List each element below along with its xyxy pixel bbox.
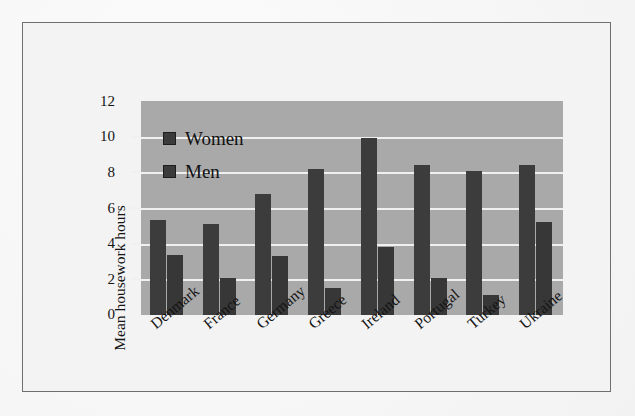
legend-entry-women: Women [163, 127, 244, 149]
tick-stub-4 [131, 243, 140, 245]
y-tick-0: 0 [75, 307, 115, 322]
legend-swatch-women-icon [163, 132, 176, 145]
chart-figure: Mean housework hours 12 10 8 6 4 2 0 D [0, 0, 635, 416]
legend-label-women: Women [185, 129, 244, 148]
y-tick-12: 12 [75, 94, 115, 109]
y-tick-2: 2 [75, 272, 115, 287]
y-tick-10: 10 [75, 129, 115, 144]
tick-stub-6 [131, 207, 140, 209]
bar-denmark-women [150, 220, 166, 315]
tick-stub-2 [131, 278, 140, 280]
legend-swatch-men-icon [163, 165, 176, 178]
legend-entry-men: Men [163, 160, 244, 182]
gridline-6 [141, 208, 563, 210]
figure-frame: Mean housework hours 12 10 8 6 4 2 0 D [22, 22, 611, 392]
bar-portugal-women [414, 165, 430, 315]
bar-ireland-women [361, 138, 377, 315]
y-tick-6: 6 [75, 201, 115, 216]
bar-turkey-women [466, 171, 482, 315]
y-axis-tick-labels: 12 10 8 6 4 2 0 [69, 23, 115, 416]
bar-greece-women [308, 169, 324, 315]
tick-stub-10 [131, 136, 140, 138]
chart-legend: Women Men [163, 127, 244, 193]
legend-label-men: Men [185, 162, 220, 181]
y-tick-4: 4 [75, 236, 115, 251]
bar-france-women [203, 224, 219, 315]
bar-germany-women [255, 194, 271, 315]
bar-ukraine-women [519, 165, 535, 315]
y-tick-8: 8 [75, 165, 115, 180]
tick-stub-8 [131, 171, 140, 173]
